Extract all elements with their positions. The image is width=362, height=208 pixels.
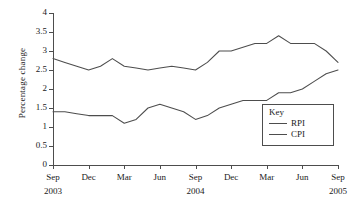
legend-swatch-cpi	[269, 134, 287, 135]
legend-swatch-rpi	[269, 123, 287, 124]
y-axis-tick-label: 1.5	[1, 103, 53, 112]
x-axis-tick	[124, 165, 125, 169]
x-axis-tick-label: Sep	[315, 172, 361, 182]
x-axis-tick	[53, 165, 54, 169]
y-axis-tick-label: 3	[1, 46, 53, 55]
legend-label-rpi: RPI	[291, 118, 305, 129]
y-axis-tick-label: 4	[1, 8, 53, 17]
x-axis-tick	[338, 165, 339, 169]
x-axis-year-label: 2004	[173, 186, 219, 196]
legend-title: Key	[269, 107, 333, 118]
y-axis-tick-label: 2	[1, 84, 53, 93]
x-axis-tick	[302, 165, 303, 169]
y-axis-tick-label: 1	[1, 122, 53, 131]
x-axis-year-label: 2003	[30, 186, 76, 196]
x-axis-tick	[267, 165, 268, 169]
chart-container: Percentage change 00.511.522.533.54 Sep2…	[0, 0, 362, 208]
legend-label-cpi: CPI	[291, 129, 305, 140]
legend-item-rpi: RPI	[269, 118, 333, 129]
y-axis-tick-label: 0	[1, 160, 53, 169]
legend-box: Key RPI CPI	[262, 104, 334, 146]
y-axis-tick-label: 3.5	[1, 27, 53, 36]
series-line-rpi	[53, 36, 338, 70]
y-axis-tick-label: 2.5	[1, 65, 53, 74]
x-axis-tick	[196, 165, 197, 169]
x-axis-tick	[160, 165, 161, 169]
x-axis-tick	[231, 165, 232, 169]
x-axis-tick	[89, 165, 90, 169]
y-axis-tick-label: 0.5	[1, 141, 53, 150]
legend-item-cpi: CPI	[269, 129, 333, 140]
x-axis-year-label: 2005	[315, 186, 361, 196]
